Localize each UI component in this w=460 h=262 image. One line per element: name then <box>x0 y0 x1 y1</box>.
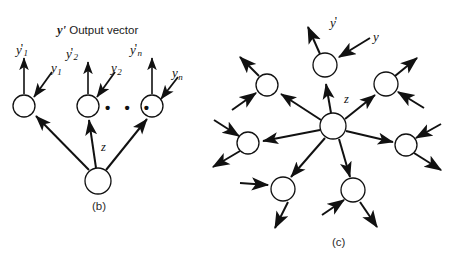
label-output-2-prime: ' <box>71 44 73 59</box>
node-left <box>237 132 259 154</box>
label-input-n-sub: n <box>178 72 183 82</box>
arrow-top-node-input <box>339 38 370 57</box>
label-input-2: y2 <box>111 61 122 77</box>
arrow-upperleft-node-output <box>240 57 259 76</box>
node-upperleft <box>256 74 278 96</box>
edge-hubc-to-node-right <box>346 131 393 142</box>
edge-hubc-to-node-upperleft <box>281 94 321 120</box>
arrow-left-node-input <box>214 120 239 136</box>
figure-canvas: y' Output vector y'1 y'2 y'n y1 y2 yn • … <box>0 0 460 262</box>
ellipsis-between-nodes: • • • <box>105 99 154 116</box>
arrow-input-1 <box>34 72 52 97</box>
label-input-2-base: y <box>111 60 117 75</box>
figure-vector-graphics <box>0 0 460 262</box>
label-output-n-prime: ' <box>135 40 137 55</box>
label-output-1-sub: 1 <box>24 48 29 58</box>
node-lowerright <box>341 178 365 202</box>
hub-node-c <box>320 113 346 139</box>
edge-hub-to-output-2 <box>89 120 96 168</box>
arrow-lowerleft-node-input <box>240 183 268 185</box>
caption-panel-b: (b) <box>92 201 106 213</box>
edge-hub-to-output-n <box>106 119 147 170</box>
label-y-prime-panel-c: y' <box>330 14 337 29</box>
label-input-1-sub: 1 <box>57 67 62 77</box>
caption-panel-c: (c) <box>332 237 345 249</box>
label-output-2-sub: 2 <box>74 52 79 62</box>
node-upperright <box>374 72 398 96</box>
label-y-panel-c: y <box>373 30 379 43</box>
arrow-lowerright-node-input <box>322 200 344 215</box>
label-output-1-prime: ' <box>21 40 23 55</box>
arrow-right-node-input <box>416 124 441 138</box>
output-node-2 <box>77 95 99 117</box>
label-input-n-base: y <box>172 65 178 80</box>
edge-hubc-to-node-left <box>263 130 320 141</box>
edge-hubc-to-node-upperright <box>345 95 375 119</box>
panel-c-graphics <box>213 27 441 228</box>
label-y-base: y <box>373 29 379 44</box>
heading-text: Output vector <box>66 24 138 36</box>
label-z-panel-b: z <box>101 141 106 154</box>
label-input-n: yn <box>172 66 183 82</box>
arrow-lowerleft-node-output <box>275 202 288 228</box>
hub-node-b <box>85 168 111 194</box>
arrow-upperright-node-output <box>395 58 417 76</box>
edge-hubc-to-node-lowerleft <box>291 138 325 177</box>
arrow-left-node-output <box>213 151 240 167</box>
arrow-top-node-output <box>308 27 320 54</box>
panel-b-graphics <box>13 58 178 194</box>
output-node-1 <box>13 95 35 117</box>
output-vector-heading: y' Output vector <box>57 24 138 37</box>
node-right <box>395 134 417 156</box>
label-z-panel-c: z <box>344 93 349 106</box>
label-input-1: y1 <box>51 61 62 77</box>
heading-symbol: y' <box>57 23 66 37</box>
node-lowerleft <box>271 177 295 201</box>
edge-hub-to-output-1 <box>36 116 89 170</box>
label-input-1-base: y <box>51 60 57 75</box>
edge-hubc-to-node-top <box>326 84 331 113</box>
arrow-upperright-node-input <box>398 92 424 108</box>
label-y-prime-mark: ' <box>335 13 337 28</box>
label-output-n: y'n <box>130 41 142 58</box>
edge-hubc-to-node-lowerright <box>339 139 350 177</box>
label-output-n-sub: n <box>138 48 143 58</box>
label-input-2-sub: 2 <box>117 67 122 77</box>
node-top <box>313 53 337 77</box>
arrow-lowerright-node-output <box>360 202 377 227</box>
arrow-upperleft-node-input <box>232 93 256 110</box>
label-output-2: y'2 <box>66 45 78 62</box>
label-output-1: y'1 <box>16 41 28 58</box>
arrow-right-node-output <box>414 153 441 170</box>
